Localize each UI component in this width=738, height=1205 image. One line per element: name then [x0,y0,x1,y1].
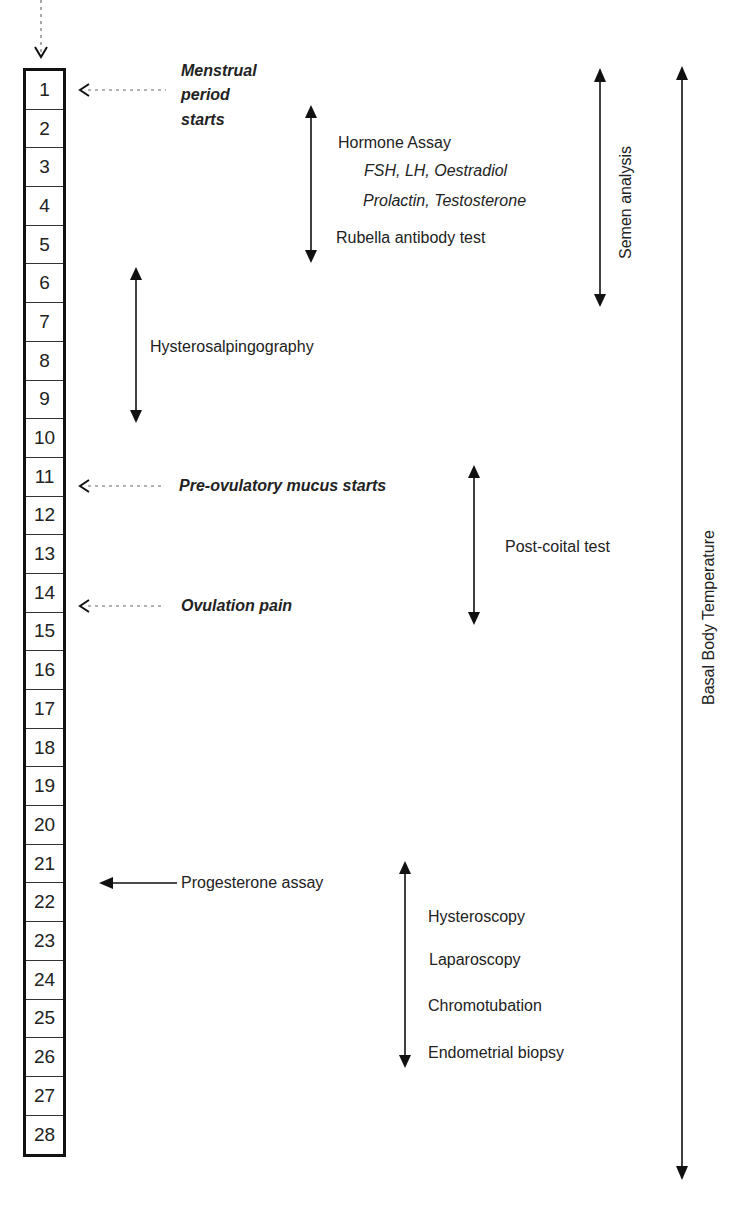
day-cell: 23 [26,922,63,961]
hormone-assay-line2: FSH, LH, Oestradiol [364,162,507,180]
endometrial-biopsy-label: Endometrial biopsy [428,1044,564,1062]
progesterone-arrow [99,877,177,889]
day-cell: 11 [26,458,63,497]
hormone-assay-line3: Prolactin, Testosterone [363,192,526,210]
day-cell: 24 [26,961,63,1000]
progesterone-label: Progesterone assay [181,874,323,892]
menstrual-pointer [80,84,166,96]
menstrual-label-line1: Menstrual [181,62,257,80]
day-cell: 19 [26,767,63,806]
day-cell: 3 [26,148,63,187]
hsg-label: Hysterosalpingography [150,338,314,356]
day-cell: 7 [26,303,63,342]
day-cell: 27 [26,1077,63,1116]
day-cell: 18 [26,729,63,768]
day-cell: 26 [26,1038,63,1077]
mucus-label: Pre-ovulatory mucus starts [179,477,386,495]
day-cell: 22 [26,883,63,922]
day-cell: 13 [26,535,63,574]
chromotubation-label: Chromotubation [428,997,542,1015]
bbt-label: Basal Body Temperature [700,530,718,705]
laparoscopy-label: Laparoscopy [429,951,521,969]
day-cell: 15 [26,613,63,652]
day-cell: 9 [26,381,63,420]
day-cell: 4 [26,187,63,226]
menstrual-label-line2: period [181,86,230,104]
day-cell: 14 [26,574,63,613]
hysteroscopy-label: Hysteroscopy [428,908,525,926]
mucus-pointer [80,480,165,492]
entry-arrow [35,0,47,57]
day-cell: 16 [26,651,63,690]
cycle-day-column: 1 2 3 4 5 6 7 8 9 10 11 12 13 14 15 16 1… [23,68,66,1157]
hsg-range-arrow [130,267,142,423]
ovulation-label: Ovulation pain [181,597,292,615]
day-cell: 10 [26,419,63,458]
semen-range-arrow [594,68,606,307]
ovulation-pointer [80,600,165,612]
day-cell: 21 [26,845,63,884]
day-cell: 6 [26,264,63,303]
menstrual-label-line3: starts [181,111,225,129]
postcoital-label: Post-coital test [505,538,610,556]
day-cell: 5 [26,226,63,265]
day-cell: 20 [26,806,63,845]
day-cell: 25 [26,1000,63,1039]
postcoital-range-arrow [468,465,480,625]
rubella-label: Rubella antibody test [336,229,485,247]
luteal-range-arrow [399,861,411,1068]
day-cell: 17 [26,690,63,729]
bbt-range-arrow [676,66,688,1180]
hormone-assay-title: Hormone Assay [338,134,451,152]
semen-analysis-label: Semen analysis [617,146,635,259]
day-cell: 2 [26,110,63,149]
day-cell: 8 [26,342,63,381]
day-cell: 1 [26,71,63,110]
day-cell: 12 [26,497,63,536]
day-cell: 28 [26,1116,63,1155]
hormone-range-arrow [305,105,317,263]
